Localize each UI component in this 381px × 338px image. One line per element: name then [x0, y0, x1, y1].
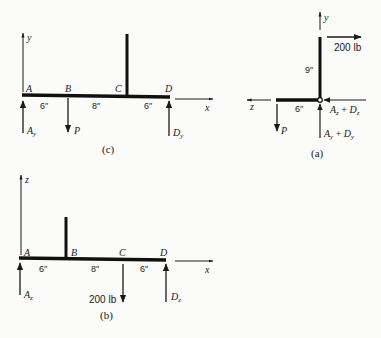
- dim-bc: 8″: [92, 101, 101, 111]
- caption-b: (b): [100, 309, 113, 322]
- load-200lb-label: 200 lb: [89, 294, 117, 305]
- dim-ab: 6″: [39, 264, 48, 274]
- z-axis-label: z: [24, 174, 29, 185]
- force-dz-label: Dz: [170, 291, 181, 304]
- force-ay-dy-label: Ay + Dy: [323, 128, 355, 141]
- z-axis-label: z: [249, 101, 254, 112]
- caption-c: (c): [102, 143, 115, 156]
- caption-a: (a): [311, 147, 324, 160]
- force-dy-label: Dy: [172, 127, 184, 140]
- force-ax-label: Az: [23, 289, 33, 302]
- dim-cd: 6″: [140, 264, 149, 274]
- diagram-c: y x A B C D 6″ 8″ 6″ Ay P Dy (c): [22, 32, 213, 156]
- point-b-label: B: [71, 247, 77, 258]
- diagram-b: z x A B C D 6″ 8″ 6″ Az 200 lb Dz (b): [19, 174, 213, 322]
- pivot-circle: [318, 98, 323, 103]
- dim-ab: 6″: [40, 101, 49, 111]
- free-body-diagram-figure: y x A B C D 6″ 8″ 6″ Ay P Dy (c) y: [0, 0, 381, 338]
- dim-cd: 6″: [144, 101, 153, 111]
- force-p-label: P: [73, 125, 80, 136]
- point-d-label: D: [164, 83, 173, 94]
- dim-horizontal: 6″: [295, 104, 304, 114]
- point-a-label: A: [23, 247, 31, 258]
- force-ay-label: Ay: [26, 125, 37, 138]
- point-c-label: C: [119, 247, 126, 258]
- y-axis-label: y: [26, 32, 32, 43]
- dim-bc: 8″: [91, 264, 100, 274]
- point-d-label: D: [159, 247, 168, 258]
- force-az-dz-label: Az + Dz: [329, 104, 360, 117]
- load-200lb-label: 200 lb: [334, 42, 362, 53]
- x-axis-label: x: [204, 264, 210, 275]
- point-a-label: A: [25, 83, 33, 94]
- point-b-label: B: [65, 83, 71, 94]
- diagram-svg: y x A B C D 6″ 8″ 6″ Ay P Dy (c) y: [0, 0, 381, 338]
- beam-ad: [19, 258, 166, 260]
- diagram-a: y 200 lb 9″ 6″ z Az + Dz Ay + Dy P (a): [247, 12, 366, 160]
- force-p-label: P: [280, 125, 287, 136]
- x-axis-label: x: [204, 102, 210, 113]
- beam-ad: [22, 95, 170, 97]
- dim-vertical: 9″: [305, 65, 314, 75]
- point-c-label: C: [115, 83, 122, 94]
- y-axis-label: y: [323, 12, 329, 23]
